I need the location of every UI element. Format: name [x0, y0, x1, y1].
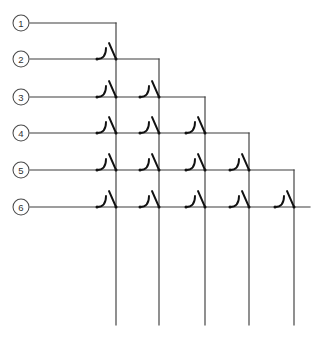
switch-hook-contact: [140, 86, 149, 97]
switch-hook-contact: [186, 159, 195, 170]
switch-r6-c5[interactable]: [274, 191, 296, 209]
switch-blade-contact: [109, 117, 116, 133]
switch-blade-pivot: [158, 169, 161, 172]
switch-hook-pivot: [139, 96, 142, 99]
switch-r4-c3[interactable]: [185, 117, 207, 135]
switch-blade-contact: [109, 191, 116, 207]
switch-r5-c3[interactable]: [185, 154, 207, 172]
switch-hook-contact: [97, 86, 106, 97]
switch-blade-contact: [152, 191, 159, 207]
switch-r2-c1[interactable]: [96, 43, 118, 61]
switch-r4-c1[interactable]: [96, 117, 118, 135]
switch-blade-contact: [287, 191, 294, 207]
switch-hook-contact: [140, 159, 149, 170]
switch-blade-pivot: [115, 58, 118, 61]
diagram-canvas: 123456: [0, 0, 319, 340]
terminal-node-5[interactable]: 5: [13, 162, 29, 178]
switch-blade-pivot: [115, 96, 118, 99]
bus-line-group: [30, 23, 310, 207]
switch-hook-pivot: [185, 169, 188, 172]
switch-blade-pivot: [248, 206, 251, 209]
switch-hook-contact: [186, 196, 195, 207]
switch-blade-contact: [152, 154, 159, 170]
switch-hook-contact: [97, 159, 106, 170]
switch-r6-c4[interactable]: [229, 191, 251, 209]
switch-hook-contact: [140, 122, 149, 133]
switch-blade-pivot: [204, 206, 207, 209]
switch-hook-pivot: [185, 132, 188, 135]
switch-hook-contact: [140, 196, 149, 207]
switch-blade-pivot: [115, 132, 118, 135]
switch-group: [96, 43, 296, 209]
node-label-1: 1: [18, 18, 23, 29]
switch-blade-contact: [152, 117, 159, 133]
switching-matrix-diagram: 123456: [0, 0, 319, 340]
switch-hook-pivot: [185, 206, 188, 209]
terminal-node-3[interactable]: 3: [13, 89, 29, 105]
terminal-node-6[interactable]: 6: [13, 199, 29, 215]
switch-blade-pivot: [248, 169, 251, 172]
switch-r6-c2[interactable]: [139, 191, 161, 209]
switch-blade-contact: [198, 154, 205, 170]
switch-blade-pivot: [158, 132, 161, 135]
switch-r5-c2[interactable]: [139, 154, 161, 172]
switch-hook-pivot: [274, 206, 277, 209]
node-label-3: 3: [18, 92, 23, 103]
switch-r6-c3[interactable]: [185, 191, 207, 209]
switch-hook-contact: [97, 122, 106, 133]
switch-r5-c4[interactable]: [229, 154, 251, 172]
switch-hook-pivot: [229, 206, 232, 209]
switch-blade-contact: [152, 81, 159, 97]
switch-hook-pivot: [96, 206, 99, 209]
switch-blade-pivot: [115, 206, 118, 209]
node-label-4: 4: [18, 128, 23, 139]
switch-hook-pivot: [139, 132, 142, 135]
switch-blade-pivot: [115, 169, 118, 172]
switch-blade-contact: [109, 154, 116, 170]
switch-blade-contact: [242, 191, 249, 207]
column-line-group: [116, 23, 294, 325]
switch-hook-pivot: [96, 132, 99, 135]
switch-r6-c1[interactable]: [96, 191, 118, 209]
switch-hook-contact: [230, 196, 239, 207]
switch-hook-pivot: [139, 169, 142, 172]
switch-blade-pivot: [158, 96, 161, 99]
node-label-2: 2: [18, 54, 23, 65]
switch-hook-pivot: [96, 58, 99, 61]
switch-r4-c2[interactable]: [139, 117, 161, 135]
switch-blade-pivot: [204, 169, 207, 172]
switch-r5-c1[interactable]: [96, 154, 118, 172]
switch-hook-pivot: [229, 169, 232, 172]
switch-blade-pivot: [293, 206, 296, 209]
switch-hook-contact: [230, 159, 239, 170]
node-label-6: 6: [18, 202, 23, 213]
switch-blade-contact: [109, 81, 116, 97]
terminal-node-1[interactable]: 1: [13, 15, 29, 31]
switch-blade-contact: [109, 43, 116, 59]
switch-hook-contact: [97, 48, 106, 59]
switch-hook-pivot: [139, 206, 142, 209]
switch-r3-c2[interactable]: [139, 81, 161, 99]
node-label-5: 5: [18, 165, 23, 176]
switch-hook-contact: [275, 196, 284, 207]
switch-hook-pivot: [96, 169, 99, 172]
switch-blade-pivot: [158, 206, 161, 209]
switch-blade-contact: [198, 117, 205, 133]
switch-hook-contact: [97, 196, 106, 207]
terminal-node-4[interactable]: 4: [13, 125, 29, 141]
switch-hook-contact: [186, 122, 195, 133]
terminal-node-2[interactable]: 2: [13, 51, 29, 67]
switch-blade-contact: [242, 154, 249, 170]
switch-hook-pivot: [96, 96, 99, 99]
switch-r3-c1[interactable]: [96, 81, 118, 99]
switch-blade-contact: [198, 191, 205, 207]
switch-blade-pivot: [204, 132, 207, 135]
terminal-node-group: 123456: [13, 15, 29, 215]
